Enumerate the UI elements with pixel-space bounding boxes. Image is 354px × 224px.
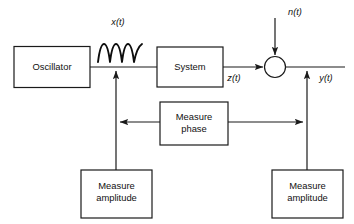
block-measure-amplitude-right-label-line1: Measure	[289, 180, 325, 191]
block-oscillator[interactable]: Oscillator	[14, 47, 90, 88]
block-measure-amplitude-left[interactable]: Measure amplitude	[81, 170, 152, 218]
block-diagram: Oscillator System Measure phase Measure …	[0, 0, 354, 224]
block-measure-phase-label-line2: phase	[181, 123, 207, 134]
diagram-canvas: Oscillator System Measure phase Measure …	[0, 0, 354, 224]
signal-label-y-of-t: y(t)	[318, 73, 332, 83]
summing-junction-node[interactable]	[265, 57, 286, 78]
block-measure-phase[interactable]: Measure phase	[160, 102, 228, 145]
waveform-x-of-t	[98, 44, 142, 62]
signal-label-n-of-t: n(t)	[288, 7, 302, 17]
block-measure-phase-label-line1: Measure	[176, 111, 212, 122]
block-measure-amplitude-left-label-line2: amplitude	[96, 192, 137, 203]
block-system[interactable]: System	[157, 47, 223, 87]
signal-label-x-of-t: x(t)	[110, 17, 124, 27]
block-oscillator-label: Oscillator	[32, 61, 71, 72]
block-measure-amplitude-right[interactable]: Measure amplitude	[272, 170, 343, 218]
block-measure-amplitude-left-label-line1: Measure	[98, 180, 134, 191]
signal-label-z-of-t: z(t)	[226, 73, 240, 83]
block-measure-amplitude-right-label-line2: amplitude	[287, 192, 328, 203]
block-system-label: System	[174, 61, 205, 72]
